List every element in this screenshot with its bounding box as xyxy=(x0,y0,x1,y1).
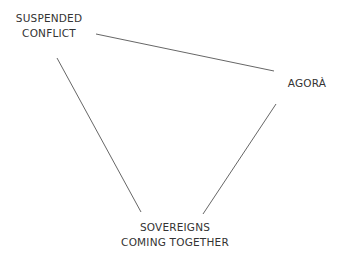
node-agora: AGORÀ xyxy=(277,76,337,91)
node-label-line: SOVEREIGNS xyxy=(105,220,245,235)
edge-suspended-conflict-to-sovereigns xyxy=(57,58,141,212)
node-sovereigns-coming-together: SOVEREIGNS COMING TOGETHER xyxy=(105,220,245,250)
edge-agora-to-sovereigns xyxy=(203,104,276,214)
node-label-line: SUSPENDED xyxy=(5,11,93,26)
node-label-line: CONFLICT xyxy=(5,26,93,41)
node-label-line: AGORÀ xyxy=(277,76,337,91)
edge-suspended-conflict-to-agora xyxy=(96,34,274,71)
node-label-line: COMING TOGETHER xyxy=(105,235,245,250)
node-suspended-conflict: SUSPENDED CONFLICT xyxy=(5,11,93,41)
